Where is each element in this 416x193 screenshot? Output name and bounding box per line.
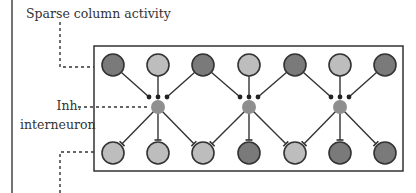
excitatory-synapse-line <box>121 72 149 97</box>
synapse-dot <box>147 95 152 100</box>
top-neuron-light <box>238 54 260 76</box>
interneuron-node <box>242 100 256 114</box>
sparse-activity-label: Sparse column activity <box>26 6 171 21</box>
inhibitory-synapse-line <box>249 107 286 144</box>
inhibitory-synapse-line <box>340 107 376 144</box>
top-neuron-dark <box>284 54 306 76</box>
excitatory-synapse-line <box>258 72 287 97</box>
synapse-dot <box>256 95 261 100</box>
synapse-dot <box>238 95 243 100</box>
top-neuron-dark <box>374 54 396 76</box>
top-neuron-dark <box>102 54 124 76</box>
nodes <box>102 54 396 164</box>
excitatory-synapse-line <box>349 72 377 97</box>
inhibitory-synapse-line <box>304 107 340 144</box>
column-diagram <box>0 0 416 193</box>
top-neuron-light <box>329 54 351 76</box>
sparse-leader <box>60 22 94 67</box>
inhibitory-synapse-line <box>212 107 249 144</box>
inhibitory-synapse-line <box>122 107 158 144</box>
bottom-neuron-dark <box>238 142 260 164</box>
excitatory-synapse-line <box>167 72 195 97</box>
top-neuron-dark <box>192 54 214 76</box>
synapse-dot <box>329 95 334 100</box>
bottom-leader <box>60 152 94 193</box>
bottom-neuron-light <box>192 142 214 164</box>
inh-label-line1: Inh. <box>44 98 94 113</box>
excitatory-synapse-line <box>211 72 240 97</box>
interneuron-node <box>333 100 347 114</box>
inh-label-line2: interneuron <box>20 117 96 132</box>
excitatory-synapse-line <box>303 72 331 97</box>
synapse-dot <box>347 95 352 100</box>
synapse-dot <box>338 95 343 100</box>
synapse-dot <box>165 95 170 100</box>
bottom-neuron-dark <box>374 142 396 164</box>
bottom-neuron-light <box>102 142 124 164</box>
bottom-neuron-light <box>147 142 169 164</box>
top-neuron-light <box>147 54 169 76</box>
synapse-dot <box>247 95 252 100</box>
bottom-neuron-light <box>284 142 306 164</box>
bottom-neuron-dark <box>329 142 351 164</box>
interneuron-node <box>151 100 165 114</box>
synapse-dot <box>156 95 161 100</box>
inhibitory-synapse-line <box>158 107 194 144</box>
